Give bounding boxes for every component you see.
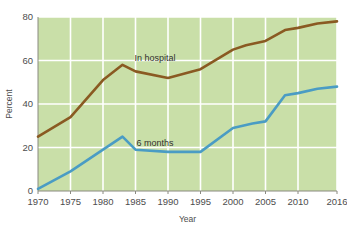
x-tick-label-1980: 1980 <box>92 196 113 207</box>
x-tick-label-2010: 2010 <box>287 196 308 207</box>
x-tick-label-2000: 2000 <box>222 196 243 207</box>
x-tick-label-1970: 1970 <box>27 196 48 207</box>
x-tick-label-1975: 1975 <box>60 196 81 207</box>
x-tick-label-1985: 1985 <box>125 196 146 207</box>
y-tick-label-0: 0 <box>28 185 33 196</box>
chart-figure: 0204060801970197519801985199019952000200… <box>0 0 347 239</box>
x-tick-label-1995: 1995 <box>190 196 211 207</box>
y-tick-label-80: 80 <box>22 11 33 22</box>
series-annotation-in-hospital: In hospital <box>134 53 175 63</box>
x-tick-label-1990: 1990 <box>157 196 178 207</box>
y-tick-label-40: 40 <box>22 98 33 109</box>
x-tick-label-2016: 2016 <box>326 196 347 207</box>
series-annotation-6-months: 6 months <box>136 138 174 148</box>
line-chart: 0204060801970197519801985199019952000200… <box>0 0 347 239</box>
x-axis-title: Year <box>179 214 196 224</box>
y-tick-label-20: 20 <box>22 142 33 153</box>
y-tick-label-60: 60 <box>22 55 33 66</box>
x-tick-label-2005: 2005 <box>255 196 276 207</box>
y-axis-title: Percent <box>4 89 14 119</box>
